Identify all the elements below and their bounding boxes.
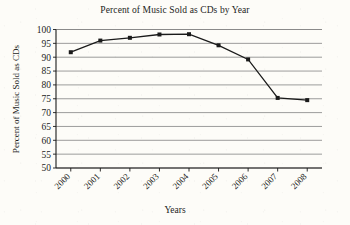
chart-plot-area: 50556065707580859095100 2000200120022003… [0,0,350,225]
x-axis-tick-label: 2001 [82,171,102,191]
y-axis-tick-label: 85 [42,66,52,76]
x-axis-tick-label: 2007 [259,171,279,191]
y-axis-tick-label: 70 [42,108,52,118]
y-axis-tick-label: 90 [42,53,52,63]
data-point-marker [69,50,73,54]
x-axis-tick-labels-group: 200020012002200320042005200620072008 [52,171,309,191]
x-axis-tick-label: 2006 [230,171,250,191]
chart-figure: Percent of Music Sold as CDs by Year Per… [0,0,350,225]
y-axis-tick-label: 75 [42,94,52,104]
data-point-marker [305,98,309,102]
y-axis-tick-label: 80 [42,80,52,90]
y-axis-tick-label: 95 [42,39,52,49]
y-axis-tick-labels-group: 50556065707580859095100 [37,25,52,174]
x-axis-tick-label: 2000 [52,171,72,191]
data-point-marker [187,32,191,36]
x-axis-tick-label: 2003 [141,171,161,191]
y-axis-tick-label: 100 [37,25,52,35]
data-point-marker [217,43,221,47]
data-point-marker [246,57,250,61]
x-axis-tick-label: 2002 [112,171,132,191]
x-axis-tick-label: 2008 [289,171,309,191]
data-series-line [71,34,307,100]
data-point-marker [128,36,132,40]
y-axis-tick-label: 50 [42,163,52,173]
data-point-marker [157,32,161,36]
data-point-marker [98,39,102,43]
x-axis-title: Years [0,205,350,215]
x-axis-tick-label: 2004 [171,171,191,191]
y-axis-tick-label: 60 [42,136,52,146]
data-point-marker [276,96,280,100]
y-axis-tick-label: 65 [42,122,52,132]
y-axis-tick-label: 55 [42,150,52,160]
x-axis-tick-label: 2005 [200,171,220,191]
